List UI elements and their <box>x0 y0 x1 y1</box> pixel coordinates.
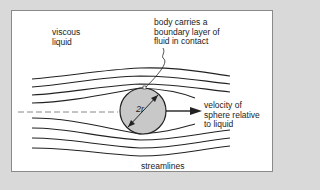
label-diameter: 2r <box>136 105 144 115</box>
label-velocity: velocity of sphere relative to liquid <box>204 101 260 130</box>
label-boundary-layer: body carries a boundary layer of fluid i… <box>154 18 220 47</box>
label-streamlines: streamlines <box>141 162 184 172</box>
label-viscous-liquid: viscous liquid <box>52 28 80 47</box>
arrowhead-icon <box>190 107 202 115</box>
